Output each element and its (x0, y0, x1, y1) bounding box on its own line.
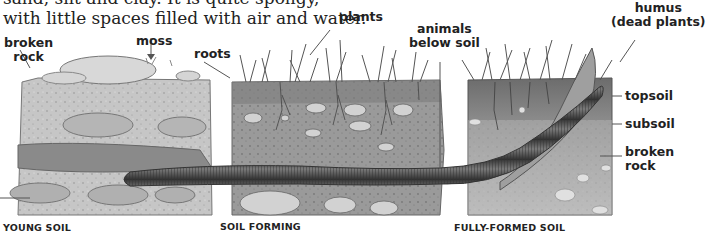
young-soil-block (10, 56, 212, 215)
label-plants: plants (339, 10, 383, 24)
label-line: rock (4, 50, 53, 64)
caption-young-soil: YOUNG SOIL (3, 222, 71, 233)
label-broken-rock-formed: broken rock (625, 145, 674, 173)
label-line: humus (611, 1, 706, 15)
label-line: (dead plants) (611, 15, 706, 29)
label-line: below soil (409, 36, 480, 50)
label-broken-rock-young: broken rock (4, 36, 53, 64)
label-roots: roots (194, 47, 231, 61)
fully-formed-soil-block (468, 48, 612, 215)
label-moss: moss (136, 34, 173, 48)
label-animals-below-soil: animals below soil (409, 22, 480, 50)
label-line: broken (4, 36, 53, 50)
label-humus: humus (dead plants) (611, 1, 706, 29)
soil-forming-block (232, 80, 444, 215)
label-line: animals (409, 22, 480, 36)
caption-soil-forming: SOIL FORMING (220, 221, 301, 232)
caption-fully-formed-soil: FULLY-FORMED SOIL (454, 222, 565, 233)
label-line: rock (625, 159, 674, 173)
label-line: broken (625, 145, 674, 159)
label-topsoil: topsoil (625, 89, 673, 103)
label-subsoil: subsoil (625, 117, 675, 131)
